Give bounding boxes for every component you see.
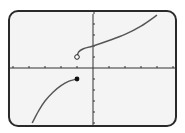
open-circle-marker [75,55,80,60]
closed-dot-marker [75,77,80,82]
function-graph [0,0,185,133]
graph-screen [0,0,185,133]
